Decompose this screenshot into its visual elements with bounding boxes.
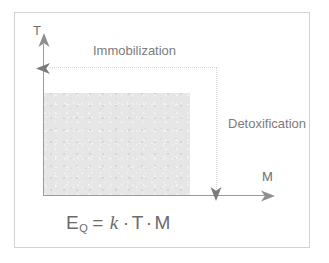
formula-expression: EQ=k·T·M [66,212,172,234]
formula-lhs-subscript: Q [79,222,90,234]
immobilization-arrow-left-icon [36,61,52,77]
formula-factor-m: M [154,212,172,234]
shaded-area-region [43,93,190,196]
m-axis-arrow-icon [258,187,276,205]
detoxification-guide-line [216,67,217,189]
diagram-canvas: T M Immobilization Detoxification EQ=k·T… [0,0,329,263]
m-axis-label: M [262,170,273,183]
m-axis-line [43,195,268,196]
formula-operator-2: · [145,212,154,234]
formula-operator-1: · [122,212,131,234]
t-axis-label: T [33,24,41,37]
detoxification-arrow-down-icon [208,186,224,202]
formula-coefficient-k: k [108,212,122,234]
immobilization-guide-line [50,67,217,68]
detoxification-label: Detoxification [228,117,306,130]
formula-factor-t: T [131,212,145,234]
formula-equals: = [90,212,108,234]
formula-lhs-symbol: E [66,212,79,234]
immobilization-label: Immobilization [93,44,176,57]
